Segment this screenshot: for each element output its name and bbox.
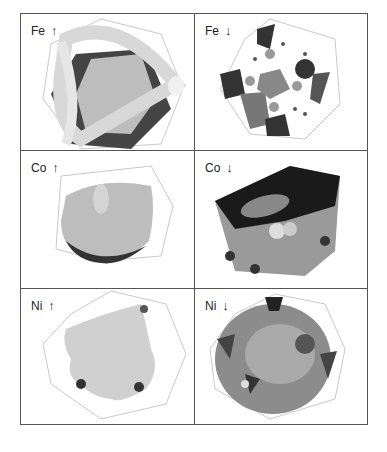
panel-fe-spin-up: Fe↑: [21, 14, 195, 151]
panel-label: Ni↑: [31, 298, 55, 313]
panel-fe-spin-down: Fe↓: [195, 14, 367, 151]
panel-label: Ni↓: [205, 298, 229, 313]
element-label: Co: [205, 161, 220, 175]
panel-co-spin-up: Co↑: [21, 151, 195, 289]
element-label: Fe: [31, 24, 45, 38]
element-label: Fe: [205, 24, 219, 38]
panel-label: Co↓: [205, 160, 233, 175]
panel-label: Fe↑: [31, 23, 58, 38]
element-label: Co: [31, 161, 46, 175]
panel-label: Co↑: [31, 160, 59, 175]
spin-down-arrow-icon: ↓: [226, 160, 233, 175]
spin-down-arrow-icon: ↓: [222, 298, 229, 313]
spin-up-arrow-icon: ↑: [51, 23, 58, 38]
element-label: Ni: [205, 299, 216, 313]
spin-up-arrow-icon: ↑: [48, 298, 55, 313]
panel-co-spin-down: Co↓: [195, 151, 367, 289]
fermi-surface-figure-grid: Fe↑ Fe↓: [20, 13, 368, 425]
panel-ni-spin-up: Ni↑: [21, 289, 195, 424]
panel-label: Fe↓: [205, 23, 232, 38]
spin-up-arrow-icon: ↑: [52, 160, 59, 175]
panel-ni-spin-down: Ni↓: [195, 289, 367, 424]
spin-down-arrow-icon: ↓: [225, 23, 232, 38]
element-label: Ni: [31, 299, 42, 313]
